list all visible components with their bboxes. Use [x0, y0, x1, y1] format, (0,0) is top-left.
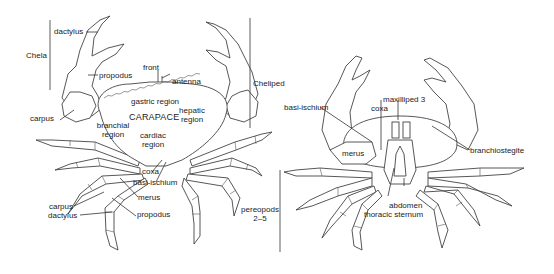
label-pereopods-line2: 2–5	[253, 214, 266, 223]
label-cardiac-region: cardiac region	[137, 131, 169, 149]
label-antenna: antenna	[172, 77, 201, 86]
label-cardiac-line1: cardiac	[140, 131, 166, 140]
label-cheliped: Cheliped	[253, 79, 285, 88]
label-abdomen: abdomen	[389, 201, 422, 210]
label-branchial-line1: branchial	[97, 121, 129, 130]
label-merus-ventral: merus	[342, 149, 364, 158]
label-cardiac-line2: region	[142, 140, 164, 149]
label-pereopods: pereopods 2–5	[240, 205, 280, 223]
label-dactylus-leg: dactylus	[48, 211, 77, 220]
label-hepatic-region: hepatic region	[174, 106, 210, 124]
label-carpus-leg: carpus	[49, 202, 73, 211]
label-thoracic-sternum: thoracic sternum	[364, 210, 423, 219]
label-pereopods-line1: pereopods	[241, 205, 279, 214]
label-carpus-claw: carpus	[30, 114, 54, 123]
label-carapace: CARAPACE	[129, 113, 179, 122]
label-branchiostegite: branchiostegite	[470, 146, 524, 155]
label-merus-dorsal: merus	[138, 193, 160, 202]
label-gastric-region: gastric region	[131, 97, 179, 106]
label-maxilliped-3: maxilliped 3	[383, 95, 425, 104]
label-hepatic-line1: hepatic	[179, 106, 205, 115]
label-chela: Chela	[26, 51, 47, 60]
label-branchial-line2: region	[102, 130, 124, 139]
label-coxa-dorsal: coxa	[142, 167, 159, 176]
label-coxa-ventral: coxa	[371, 104, 388, 113]
label-branchial-region: branchial region	[95, 121, 131, 139]
label-hepatic-line2: region	[181, 115, 203, 124]
label-basi-ischium-dorsal: basi-ischium	[133, 178, 177, 187]
label-propodus-leg: propodus	[137, 210, 170, 219]
crab-diagram-drawing	[0, 0, 554, 274]
label-propodus-claw: propodus	[99, 71, 132, 80]
label-dactylus-claw: dactylus	[54, 27, 83, 36]
label-basi-ischium-ventral: basi-ischium	[284, 103, 328, 112]
label-front: front	[143, 63, 159, 72]
